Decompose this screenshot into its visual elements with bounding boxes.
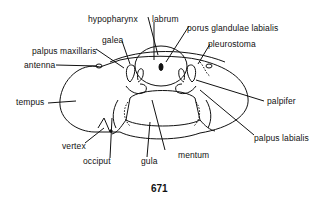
mentum-shape (126, 91, 200, 127)
label-palpus-labialis: palpus labialis (254, 134, 309, 143)
label-palpus-maxillaris: palpus maxillaris (32, 47, 97, 56)
label-gula: gula (141, 157, 157, 166)
label-antenna: antenna (24, 61, 55, 70)
label-hypopharynx: hypopharynx (88, 15, 138, 24)
porus-dot (159, 64, 163, 71)
label-labrum: labrum (152, 15, 179, 24)
label-galea: galea (102, 36, 123, 45)
label-palpifer: palpifer (267, 97, 296, 106)
label-porus-glandulae-labialis: porus glandulae labialis (187, 24, 278, 33)
diagram-figure: hypopharynx labrum porus glandulae labia… (0, 0, 325, 197)
label-mentum: mentum (178, 151, 209, 160)
label-pleurostoma: pleurostoma (208, 40, 256, 49)
label-vertex: vertex (62, 142, 86, 151)
label-occiput: occiput (83, 157, 111, 166)
antenna-right (206, 64, 212, 68)
figure-number: 671 (151, 183, 168, 194)
label-tempus: tempus (16, 98, 44, 107)
head-capsule-outline (60, 56, 248, 139)
